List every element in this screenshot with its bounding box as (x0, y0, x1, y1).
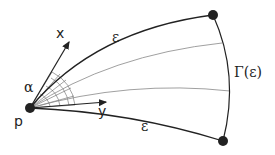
gamma-label: Γ(ε) (234, 65, 262, 79)
edge-top-label: ε (112, 30, 119, 44)
y-axis-label: y (98, 104, 106, 118)
endpoint-bottom (218, 136, 228, 146)
angle-label: α (24, 80, 33, 94)
gamma-arc (213, 15, 230, 141)
edge-bottom (30, 108, 223, 141)
x-axis-label: x (56, 26, 64, 40)
point-label: p (14, 114, 23, 128)
point-p (25, 103, 35, 113)
endpoint-top (208, 10, 218, 20)
sector-diagram: x y α p ε ε Γ(ε) (0, 0, 275, 155)
edge-bottom-label: ε (141, 119, 148, 133)
